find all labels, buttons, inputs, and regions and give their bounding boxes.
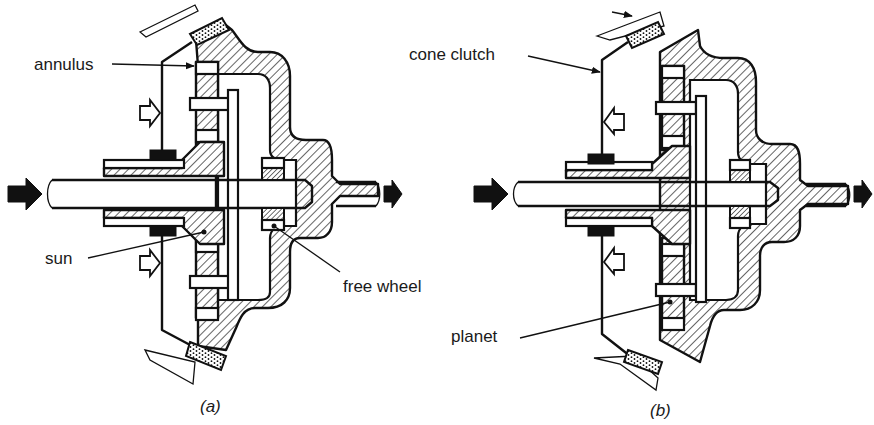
clutch-collar-bottom xyxy=(588,226,614,236)
clutch-collar-top xyxy=(150,150,176,160)
caption-a: (a) xyxy=(200,397,221,416)
clutch-collar-top xyxy=(588,154,614,164)
cone-clutch-member-bottom xyxy=(162,236,192,346)
actuation-arrow-bottom xyxy=(604,248,624,274)
free-wheel-top xyxy=(262,168,284,180)
label-sun: sun xyxy=(45,249,72,268)
epicyclic-gear-diagram: annulus sun free wheel (a) xyxy=(0,0,874,425)
free-wheel-leader-dot xyxy=(272,224,277,229)
actuation-arrow-top xyxy=(140,100,160,126)
cone-clutch-leader xyxy=(528,56,600,72)
free-wheel-bottom xyxy=(262,208,284,220)
caption-b: (b) xyxy=(650,401,671,420)
planet-pin-bottom xyxy=(656,284,696,296)
label-planet: planet xyxy=(451,327,498,346)
actuation-arrow-bottom xyxy=(140,250,160,276)
slot xyxy=(662,318,684,330)
free-wheel-bottom xyxy=(730,206,750,218)
clutch-collar-bottom xyxy=(150,226,176,236)
shaft-break xyxy=(514,182,519,206)
slot xyxy=(196,130,218,142)
slot xyxy=(662,66,684,78)
label-free-wheel: free wheel xyxy=(343,277,421,296)
output-arrow xyxy=(854,180,872,208)
label-annulus: annulus xyxy=(34,55,94,74)
shaft-break xyxy=(48,180,53,208)
clutch-lining-top xyxy=(626,22,664,48)
actuation-arrow-top xyxy=(604,108,624,134)
free-wheel-top xyxy=(730,170,750,182)
sun-leader-dot xyxy=(202,230,207,235)
slot xyxy=(196,308,218,320)
slot xyxy=(196,62,218,74)
label-cone-clutch: cone clutch xyxy=(409,45,495,64)
housing-leader xyxy=(612,12,632,16)
sleeve-face xyxy=(104,218,184,226)
planet-carrier xyxy=(696,96,706,302)
planet-pin-top xyxy=(656,102,696,114)
sleeve-face xyxy=(104,160,184,168)
planet-carrier xyxy=(228,90,238,300)
annulus-leader xyxy=(112,64,194,66)
planet-leader xyxy=(520,302,670,338)
panel-b: cone clutch planet (b) xyxy=(409,12,872,420)
input-arrow xyxy=(474,178,508,210)
free-wheel-race xyxy=(262,158,284,168)
planet-leader-dot xyxy=(668,300,673,305)
sleeve-face xyxy=(566,218,652,226)
fixed-housing-top xyxy=(140,5,198,37)
slot xyxy=(662,244,684,256)
output-arrow xyxy=(384,180,402,208)
cone-clutch-member-top xyxy=(162,42,192,150)
input-arrow xyxy=(8,178,42,210)
planet-pin-top xyxy=(190,98,230,110)
cone-clutch-member-top xyxy=(602,42,628,154)
panel-a: annulus sun free wheel (a) xyxy=(8,5,421,416)
sun-leader xyxy=(88,232,204,258)
planet-pin-bottom xyxy=(190,276,230,288)
free-wheel-race xyxy=(730,218,750,228)
free-wheel-race xyxy=(730,160,750,170)
